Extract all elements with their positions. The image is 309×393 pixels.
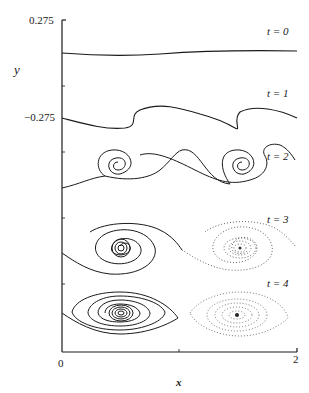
vortex-t4-right: [190, 292, 288, 336]
vortex-t4-left: [62, 292, 178, 334]
curve-t2: [62, 144, 295, 188]
panel-label-t0: t = 0: [267, 26, 288, 37]
curve-t0: [62, 51, 297, 56]
y-tick-top: 0.275: [29, 15, 54, 26]
vortex-t3-right: [182, 222, 295, 271]
panel-label-t2: t = 2: [267, 151, 288, 162]
axes: [62, 20, 297, 352]
panel-label-t3: t = 3: [267, 214, 288, 225]
x-tick-right: 2: [293, 354, 299, 365]
panel-label-t4: t = 4: [267, 278, 288, 289]
x-axis-label: x: [176, 377, 182, 388]
vortex-t3-left: [62, 223, 182, 274]
x-tick-left: 0: [58, 358, 64, 369]
curve-t1: [62, 106, 297, 129]
y-axis-label: y: [14, 63, 20, 76]
vortex-sheet-figure: [0, 0, 309, 393]
panel-label-t1: t = 1: [267, 88, 288, 99]
y-tick-bottom: −0.275: [24, 112, 55, 123]
